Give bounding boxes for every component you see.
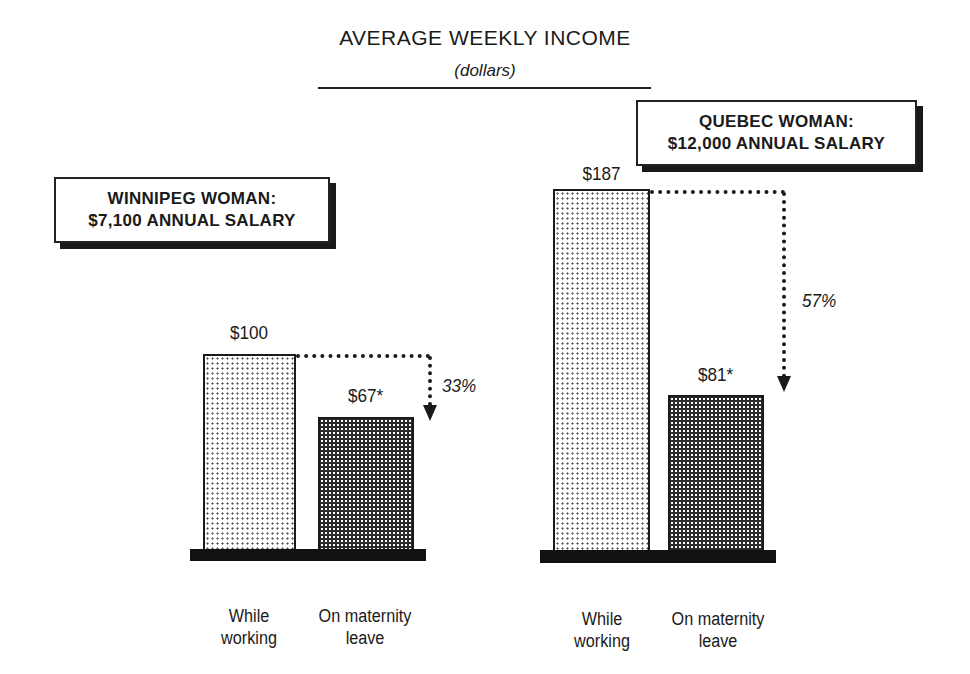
chart-title: AVERAGE WEEKLY INCOME <box>0 26 970 50</box>
winnipeg-label-box: WINNIPEG WOMAN: $7,100 ANNUAL SALARY <box>54 177 330 243</box>
winnipeg-leave-value: $67* <box>323 385 409 407</box>
quebec-drop-arrow-icon <box>777 376 791 392</box>
category-line: working <box>204 627 294 649</box>
quebec-label-line2: $12,000 ANNUAL SALARY <box>638 133 915 155</box>
category-line: leave <box>307 627 424 649</box>
quebec-baseline <box>540 550 776 563</box>
winnipeg-leave-bar <box>318 417 414 551</box>
winnipeg-leave-category: On maternity leave <box>307 605 424 649</box>
category-line: leave <box>660 630 777 652</box>
winnipeg-label-line2: $7,100 ANNUAL SALARY <box>56 210 328 232</box>
quebec-leave-category: On maternity leave <box>660 608 777 652</box>
winnipeg-drop-arrow-icon <box>423 405 437 421</box>
winnipeg-drop-percent: 33% <box>442 375 476 397</box>
quebec-working-category: While working <box>557 608 647 652</box>
title-underline <box>318 87 651 89</box>
quebec-label-line1: QUEBEC WOMAN: <box>638 111 915 133</box>
chart-subtitle: (dollars) <box>0 61 970 81</box>
quebec-working-bar <box>553 189 650 552</box>
category-line: While <box>204 605 294 627</box>
quebec-drop-line-horizontal <box>650 190 785 194</box>
winnipeg-working-value: $100 <box>208 322 291 344</box>
category-line: On maternity <box>660 608 777 630</box>
winnipeg-drop-line-vertical <box>428 356 432 406</box>
category-line: working <box>557 630 647 652</box>
winnipeg-label-line1: WINNIPEG WOMAN: <box>56 188 328 210</box>
winnipeg-baseline <box>190 549 426 561</box>
winnipeg-working-bar <box>203 354 296 551</box>
quebec-leave-bar <box>668 395 764 552</box>
winnipeg-drop-line-horizontal <box>296 354 430 358</box>
quebec-drop-line-vertical <box>782 192 786 378</box>
quebec-drop-percent: 57% <box>802 290 836 312</box>
winnipeg-working-category: While working <box>204 605 294 649</box>
quebec-working-value: $187 <box>558 163 645 185</box>
quebec-leave-value: $81* <box>673 364 759 386</box>
category-line: On maternity <box>307 605 424 627</box>
quebec-label-box: QUEBEC WOMAN: $12,000 ANNUAL SALARY <box>636 100 917 166</box>
category-line: While <box>557 608 647 630</box>
